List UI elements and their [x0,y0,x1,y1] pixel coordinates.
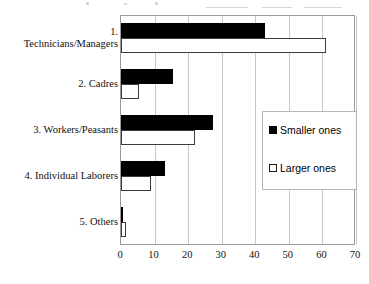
category-label-line: 5. Others [0,216,118,228]
legend-item-smaller-ones: Smaller ones [269,124,352,136]
x-tick-label-0: 0 [105,249,135,260]
bar-smaller-ones [121,161,165,176]
category-label-5: 5. Others [0,216,118,228]
category-label-line: 1. [0,26,118,38]
x-tick-label-50: 50 [273,249,303,260]
bar-larger-ones [121,38,326,53]
bar-group [121,16,354,62]
x-tick-label-60: 60 [306,249,336,260]
bar-larger-ones [121,176,151,191]
filled-square-icon [269,126,277,134]
bar-larger-ones [121,222,126,237]
category-label-2: 2. Cadres [0,78,118,90]
legend-label-smaller-ones: Smaller ones [280,124,341,136]
bar-larger-ones [121,84,139,99]
category-label-line: 3. Workers/Peasants [0,124,118,136]
bar-smaller-ones [121,115,213,130]
legend-item-larger-ones: Larger ones [269,162,352,174]
horizontal-bar-chart: 1.Technicians/Managers2. Cadres3. Worker… [0,0,369,284]
category-label-line: 4. Individual Laborers [0,170,118,182]
bar-larger-ones [121,130,195,145]
hollow-square-icon [269,164,277,172]
legend-label-larger-ones: Larger ones [280,162,336,174]
x-tick-label-70: 70 [340,249,369,260]
x-tick-label-40: 40 [239,249,269,260]
chart-legend: Smaller ones Larger ones [262,111,357,190]
x-tick-label-10: 10 [139,249,169,260]
bar-smaller-ones [121,23,265,38]
x-axis-tick-labels: 010203040506070 [120,249,355,267]
bar-smaller-ones [121,69,173,84]
category-label-4: 4. Individual Laborers [0,170,118,182]
bar-smaller-ones [121,207,123,222]
category-label-line: 2. Cadres [0,78,118,90]
x-tick-label-20: 20 [172,249,202,260]
category-label-3: 3. Workers/Peasants [0,124,118,136]
x-tick-label-30: 30 [206,249,236,260]
bar-group [121,200,354,246]
category-label-line: Technicians/Managers [0,38,118,50]
scan-artifact-speckles [0,0,369,12]
category-label-1: 1.Technicians/Managers [0,26,118,50]
bar-group [121,62,354,108]
